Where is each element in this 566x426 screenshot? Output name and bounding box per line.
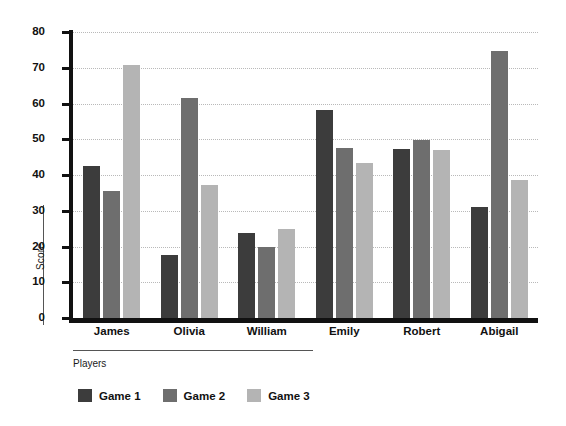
bar[interactable] [413, 140, 430, 318]
y-axis-label-group: Score [24, 205, 44, 325]
bar-group [73, 32, 151, 318]
x-axis-baseline [69, 318, 538, 323]
legend-swatch [163, 389, 177, 402]
y-axis-tick-label: 10 [11, 276, 45, 288]
x-axis-category-label: William [228, 325, 306, 337]
bar[interactable] [181, 98, 198, 318]
x-axis-category-label: Abigail [461, 325, 539, 337]
bar-group [461, 32, 539, 318]
y-axis-tick-label: 40 [11, 169, 45, 181]
y-axis-tick-label: 70 [11, 62, 45, 74]
bar-group [383, 32, 461, 318]
x-axis-label-group: Players [73, 350, 323, 376]
y-axis-tick [62, 174, 70, 177]
bar-group [228, 32, 306, 318]
bar[interactable] [161, 255, 178, 318]
y-axis-tick-label: 60 [11, 98, 45, 110]
x-axis-category-label: James [73, 325, 151, 337]
legend-item[interactable]: Game 3 [247, 389, 310, 402]
bar-chart: Score 01020304050607080 JamesOliviaWilli… [0, 0, 566, 426]
legend-item[interactable]: Game 1 [78, 389, 141, 402]
bar[interactable] [491, 51, 508, 318]
y-axis-tick [62, 31, 70, 34]
bar[interactable] [278, 229, 295, 318]
y-axis-tick [62, 138, 70, 141]
bar[interactable] [511, 180, 528, 318]
legend-label: Game 3 [268, 390, 310, 402]
bar[interactable] [123, 65, 140, 318]
x-axis-label: Players [73, 358, 106, 369]
y-axis-tick [62, 210, 70, 213]
bar[interactable] [201, 185, 218, 318]
bar[interactable] [356, 163, 373, 319]
x-axis-category-label: Emily [306, 325, 384, 337]
bar[interactable] [103, 191, 120, 318]
legend-swatch [247, 389, 261, 402]
bar[interactable] [258, 247, 275, 318]
bar[interactable] [471, 207, 488, 318]
plot-area [73, 32, 538, 318]
y-axis-tick-label: 20 [11, 241, 45, 253]
bar[interactable] [336, 148, 353, 318]
y-axis-tick [62, 103, 70, 106]
bar-group [306, 32, 384, 318]
bar[interactable] [238, 233, 255, 318]
bar[interactable] [393, 149, 410, 318]
legend-swatch [78, 389, 92, 402]
bar[interactable] [316, 110, 333, 318]
y-axis-tick-label: 50 [11, 133, 45, 145]
y-axis-tick-label: 80 [11, 26, 45, 38]
legend-label: Game 2 [184, 390, 226, 402]
legend-item[interactable]: Game 2 [163, 389, 226, 402]
y-axis-tick [62, 67, 70, 70]
legend-label: Game 1 [99, 390, 141, 402]
x-axis-category-label: Robert [383, 325, 461, 337]
y-axis-tick [62, 246, 70, 249]
y-axis-tick [62, 281, 70, 284]
legend: Game 1Game 2Game 3 [78, 389, 332, 402]
y-axis-tick-label: 0 [11, 312, 45, 324]
x-axis-category-label: Olivia [151, 325, 229, 337]
y-axis-label: Score [35, 207, 46, 307]
y-axis-tick-label: 30 [11, 205, 45, 217]
bar[interactable] [83, 166, 100, 318]
bar-group [151, 32, 229, 318]
x-axis-label-rule [73, 350, 313, 351]
bar[interactable] [433, 150, 450, 318]
